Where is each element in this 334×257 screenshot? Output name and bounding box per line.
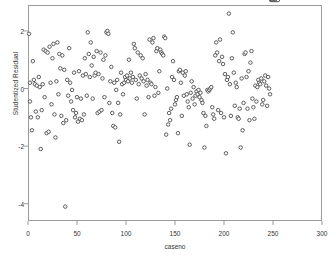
data-point [103, 95, 107, 99]
data-point [245, 75, 249, 79]
data-point [135, 97, 139, 101]
data-point [266, 75, 270, 79]
data-point [261, 98, 265, 102]
data-point [143, 113, 147, 117]
data-point [108, 101, 112, 105]
data-point [86, 31, 90, 35]
data-point [234, 81, 238, 85]
data-point [121, 93, 125, 97]
data-point [66, 94, 70, 98]
data-point [46, 51, 50, 55]
data-point [37, 75, 41, 79]
data-point [60, 114, 64, 118]
data-point [92, 55, 96, 59]
data-point [228, 82, 232, 86]
data-point [217, 59, 221, 63]
data-point [63, 205, 67, 209]
data-point [87, 52, 91, 56]
data-point [83, 57, 87, 61]
data-point [62, 121, 66, 125]
data-point [154, 85, 158, 89]
x-tick-label: 150 [170, 230, 181, 237]
data-point [249, 61, 253, 65]
data-point [230, 57, 234, 61]
data-point [73, 116, 77, 120]
data-point [56, 41, 60, 45]
data-point [226, 75, 230, 79]
data-point [29, 116, 33, 120]
data-point [186, 100, 190, 104]
y-tick-label: 0 [8, 85, 24, 92]
data-point [88, 75, 92, 79]
data-point [67, 46, 71, 50]
data-point [111, 111, 115, 115]
x-tick-label: 100 [121, 230, 132, 237]
data-point [221, 62, 225, 66]
data-point [164, 133, 168, 137]
data-point [265, 104, 269, 108]
data-point [187, 105, 191, 109]
data-point [165, 87, 169, 91]
data-point [244, 51, 248, 55]
data-point [178, 68, 182, 72]
data-point [89, 41, 93, 45]
data-point [212, 117, 216, 121]
data-point [107, 32, 111, 36]
data-point [77, 69, 81, 73]
data-point [61, 54, 65, 58]
data-point [34, 110, 38, 114]
data-point [113, 126, 117, 129]
data-point [153, 94, 157, 98]
data-point [223, 72, 227, 76]
data-point [204, 114, 208, 118]
data-point [191, 97, 195, 101]
data-point [69, 100, 73, 104]
data-point [100, 108, 104, 112]
data-point [220, 55, 224, 59]
data-point [112, 81, 116, 85]
data-point [31, 59, 35, 63]
data-point [219, 111, 223, 115]
data-point [40, 108, 44, 112]
data-point [144, 72, 148, 76]
data-point [57, 93, 61, 97]
data-point [90, 64, 94, 68]
data-point [151, 41, 155, 45]
data-point [248, 118, 252, 122]
data-point [150, 82, 154, 86]
data-point [49, 81, 53, 85]
data-point [185, 93, 189, 97]
data-point [218, 38, 222, 42]
data-point [47, 130, 51, 134]
data-point [152, 36, 156, 40]
data-point [72, 71, 76, 75]
data-point [192, 85, 196, 89]
data-point [65, 78, 69, 82]
data-point [166, 123, 170, 127]
data-point [268, 93, 272, 97]
data-point [260, 103, 264, 107]
data-points-layer [27, 0, 279, 208]
data-point [211, 113, 215, 117]
y-tick-label: 2 [8, 27, 24, 34]
data-point [114, 88, 118, 92]
data-point [183, 74, 187, 78]
data-point [125, 74, 129, 78]
data-point [41, 82, 45, 86]
data-point [256, 85, 260, 89]
data-point [175, 95, 179, 99]
data-point [179, 81, 183, 85]
data-point [52, 42, 56, 46]
data-point [28, 100, 32, 104]
data-point [136, 51, 140, 55]
data-point [147, 95, 151, 99]
data-point [264, 84, 268, 88]
data-point [116, 101, 120, 105]
data-point [27, 32, 31, 36]
data-point [53, 113, 57, 117]
data-point [169, 107, 173, 111]
data-point [39, 147, 43, 151]
data-point [203, 146, 207, 150]
data-point [55, 80, 59, 84]
data-point [110, 65, 114, 69]
